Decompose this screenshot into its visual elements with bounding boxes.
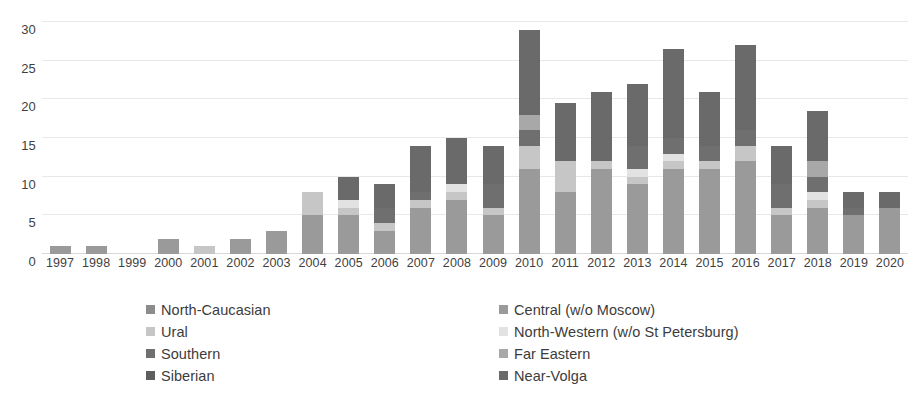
x-axis-tick-2019: 2019 [840, 256, 868, 270]
bar-2001 [194, 246, 215, 254]
legend-label: Siberian [161, 368, 215, 384]
bar-segment-ural [410, 200, 431, 208]
bar-2003 [266, 231, 287, 254]
x-axis-tick-2013: 2013 [623, 256, 651, 270]
x-axis-tick-1997: 1997 [46, 256, 74, 270]
x-axis-tick-2008: 2008 [443, 256, 471, 270]
legend-swatch-icon [499, 305, 508, 314]
bar-segment-central-w-o-moscow [86, 246, 107, 254]
legend-label: North-Caucasian [161, 302, 271, 318]
bar-2005 [338, 177, 359, 254]
bar-segment-southern [807, 177, 828, 192]
bar-segment-near-volga [338, 177, 359, 200]
legend-swatch-icon [499, 327, 508, 336]
bar-segment-central-w-o-moscow [302, 215, 323, 254]
x-axis-tick-2015: 2015 [695, 256, 723, 270]
bar-segment-near-volga [410, 146, 431, 192]
x-axis-tick-2001: 2001 [190, 256, 218, 270]
bar-segment-southern [519, 130, 540, 145]
bar-segment-north-western-w-o-st-petersburg [446, 184, 467, 192]
bar-segment-ural [627, 177, 648, 185]
legend-label: Far Eastern [514, 346, 590, 362]
bar-segment-north-western-w-o-st-petersburg [663, 154, 684, 162]
bar-segment-near-volga [699, 92, 720, 146]
legend-column-right: Central (w/o Moscow)North-Western (w/o S… [499, 299, 739, 387]
bar-2018 [807, 111, 828, 254]
bar-segment-near-volga [735, 45, 756, 130]
x-axis-tick-2006: 2006 [371, 256, 399, 270]
bar-segment-southern [627, 146, 648, 169]
legend-item-north-caucasian[interactable]: North-Caucasian [146, 299, 271, 320]
plot-area [42, 22, 908, 254]
bar-2007 [410, 146, 431, 254]
bar-segment-ural [483, 208, 504, 216]
bar-segment-ural [663, 161, 684, 169]
y-axis: 051015202530 [0, 22, 36, 254]
x-axis-tick-1998: 1998 [82, 256, 110, 270]
bar-segment-central-w-o-moscow [338, 215, 359, 254]
bar-segment-southern [699, 146, 720, 161]
legend-label: Central (w/o Moscow) [514, 302, 655, 318]
legend-swatch-icon [146, 349, 155, 358]
bar-2009 [483, 146, 504, 254]
bar-segment-near-volga [627, 84, 648, 146]
bar-segment-central-w-o-moscow [807, 208, 828, 254]
bar-segment-near-volga [879, 192, 900, 207]
bar-segment-ural [699, 161, 720, 169]
legend-item-ural[interactable]: Ural [146, 321, 271, 342]
stacked-bar-chart: 051015202530 199719981999200020012002200… [0, 0, 916, 413]
bar-segment-ural [519, 146, 540, 169]
bar-segment-near-volga [591, 92, 612, 162]
bar-segment-central-w-o-moscow [771, 215, 792, 254]
bar-2015 [699, 92, 720, 254]
bar-2002 [230, 239, 251, 254]
x-axis-tick-2009: 2009 [479, 256, 507, 270]
legend-label: Ural [161, 324, 188, 340]
bars-layer [42, 22, 908, 254]
x-axis-tick-2017: 2017 [768, 256, 796, 270]
bar-segment-central-w-o-moscow [519, 169, 540, 254]
bar-2014 [663, 49, 684, 254]
bar-2011 [555, 103, 576, 254]
x-axis-tick-2004: 2004 [299, 256, 327, 270]
x-axis-tick-2016: 2016 [732, 256, 760, 270]
legend-swatch-icon [499, 349, 508, 358]
bar-segment-central-w-o-moscow [663, 169, 684, 254]
bar-segment-central-w-o-moscow [735, 161, 756, 254]
bar-segment-southern [410, 192, 431, 200]
x-axis-tick-2010: 2010 [515, 256, 543, 270]
bar-segment-southern [771, 184, 792, 207]
bar-segment-central-w-o-moscow [483, 215, 504, 254]
bar-segment-ural [591, 161, 612, 169]
bar-segment-near-volga [446, 138, 467, 184]
bar-segment-central-w-o-moscow [843, 215, 864, 254]
bar-segment-ural [302, 192, 323, 215]
bar-segment-ural [771, 208, 792, 216]
bar-segment-southern [483, 184, 504, 207]
bar-segment-central-w-o-moscow [555, 192, 576, 254]
bar-segment-near-volga [807, 111, 828, 161]
chart-legend: North-CaucasianUralSouthernSiberianCentr… [146, 299, 846, 387]
bar-segment-ural [338, 208, 359, 216]
legend-item-near-volga[interactable]: Near-Volga [499, 365, 739, 386]
x-axis-tick-2000: 2000 [154, 256, 182, 270]
bar-segment-near-volga [483, 146, 504, 185]
legend-item-north-western-w-o-st-petersburg[interactable]: North-Western (w/o St Petersburg) [499, 321, 739, 342]
bar-segment-near-volga [555, 103, 576, 161]
bar-segment-far-eastern [807, 161, 828, 176]
bar-2004 [302, 192, 323, 254]
x-axis-tick-2020: 2020 [876, 256, 904, 270]
legend-item-central-w-o-moscow[interactable]: Central (w/o Moscow) [499, 299, 739, 320]
bar-segment-central-w-o-moscow [446, 200, 467, 254]
legend-swatch-icon [146, 327, 155, 336]
bar-segment-southern [663, 138, 684, 153]
legend-item-southern[interactable]: Southern [146, 343, 271, 364]
bar-segment-southern [374, 208, 395, 223]
bar-segment-central-w-o-moscow [699, 169, 720, 254]
x-axis: 1997199819992000200120022003200420052006… [42, 256, 908, 276]
legend-swatch-icon [499, 371, 508, 380]
legend-item-far-eastern[interactable]: Far Eastern [499, 343, 739, 364]
bar-segment-near-volga [771, 146, 792, 185]
bar-segment-central-w-o-moscow [627, 184, 648, 254]
legend-item-siberian[interactable]: Siberian [146, 365, 271, 386]
